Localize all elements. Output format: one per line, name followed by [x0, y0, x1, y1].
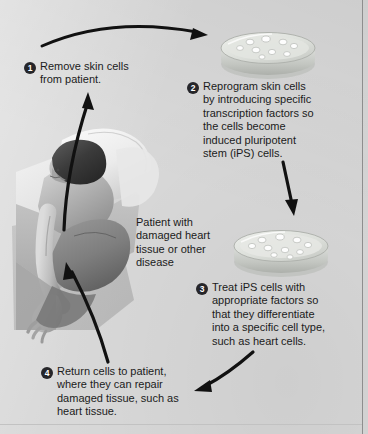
- step-1-text: Remove skin cells from patient.: [40, 60, 129, 87]
- step-4-badge: 4: [41, 367, 53, 379]
- step-1-badge: 1: [24, 62, 36, 74]
- step-2-badge: 2: [187, 82, 199, 94]
- step-3: 3 Treat iPS cells with appropriate facto…: [196, 281, 362, 348]
- arrow-step4-to-patient: [63, 262, 108, 362]
- ips-cell-therapy-diagram: 1 Remove skin cells from patient. 2 Repr…: [0, 0, 368, 434]
- step-1: 1 Remove skin cells from patient.: [24, 60, 174, 87]
- step-2: 2 Reprogram skin cells by introducing sp…: [187, 80, 359, 160]
- step-4-text: Return cells to patient, where they can …: [57, 365, 179, 419]
- patient-caption: Patient with damaged heart tissue or oth…: [136, 216, 226, 270]
- step-4: 4 Return cells to patient, where they ca…: [41, 365, 219, 419]
- right-divider: [362, 0, 363, 434]
- arrow-patient-to-step1: [64, 92, 94, 230]
- step-3-text: Treat iPS cells with appropriate factors…: [212, 281, 325, 348]
- bottom-divider: [0, 424, 363, 425]
- step-3-badge: 3: [196, 283, 208, 295]
- arrow-dish1-to-dish2: [283, 162, 298, 216]
- step-2-text: Reprogram skin cells by introducing spec…: [203, 80, 314, 160]
- arrow-step1-to-dish1: [42, 26, 208, 46]
